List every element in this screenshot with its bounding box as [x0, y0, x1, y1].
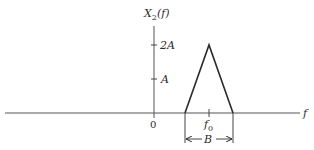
f0-label: f0: [203, 118, 213, 133]
spectrum-diagram: X2(f) 2A A f 0 f0 B: [0, 0, 314, 150]
origin-label: 0: [150, 119, 156, 130]
bandwidth-label: B: [203, 133, 212, 146]
y-tick-label-2a: 2A: [159, 39, 175, 52]
x-axis-label: f: [302, 107, 309, 120]
figure-title: X2(f): [143, 7, 170, 22]
triangle-spectrum: [185, 45, 233, 113]
y-tick-label-a: A: [160, 73, 169, 86]
